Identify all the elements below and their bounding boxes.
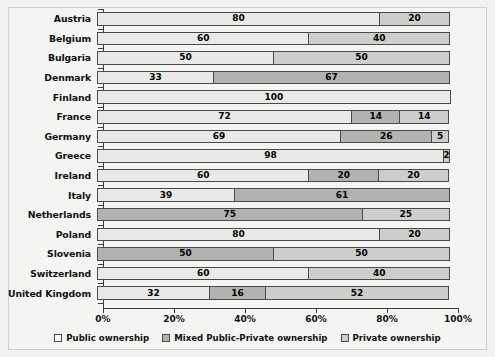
x-tick-label: 0% [95,314,110,324]
category-label: Belgium [0,33,97,44]
bar-segment-value: 40 [373,34,386,43]
stacked-bar: 6040 [97,267,451,281]
x-tick [458,308,459,313]
bar-segment-public: 98 [97,149,444,163]
bar-track: 8020 [97,12,451,26]
bar-segment-mixed: 67 [213,71,450,85]
bar-track: 982 [97,149,451,163]
legend-label: Private ownership [353,333,441,343]
y-tick [98,303,103,304]
bar-segment-public: 32 [97,286,210,300]
stacked-bar: 6040 [97,32,451,46]
bar-segment-public: 60 [97,169,309,183]
bar-segment-private: 50 [273,51,450,65]
x-tick-label: 80% [376,314,398,324]
x-tick [316,308,317,313]
bar-segment-mixed: 14 [351,110,401,124]
legend-swatch-icon [54,334,62,342]
bar-segment-value: 50 [179,249,192,258]
bar-segment-value: 80 [232,14,245,23]
bar-segment-value: 20 [408,14,421,23]
bar-segment-public: 33 [97,71,214,85]
category-label: France [0,111,97,122]
legend-item-public[interactable]: Public ownership [54,333,149,343]
bar-segment-public: 72 [97,110,352,124]
bar-segment-value: 100 [265,93,284,102]
bar-track: 321652 [97,286,451,300]
bar-segment-mixed: 26 [340,130,432,144]
bar-track: 8020 [97,228,451,242]
stacked-bar: 100 [97,90,451,104]
bar-row: France721414 [0,107,495,127]
stacked-bar: 721414 [97,110,451,124]
bar-row: Belgium6040 [0,29,495,49]
legend-swatch-icon [162,334,170,342]
category-label: Poland [0,229,97,240]
legend-item-private[interactable]: Private ownership [341,333,441,343]
bar-segment-mixed: 20 [308,169,379,183]
x-axis-tick-labels: 0%20%40%60%80%100% [0,314,495,328]
bar-segment-value: 26 [380,132,393,141]
x-tick-label: 100% [444,314,472,324]
bar-track: 6040 [97,267,451,281]
category-label: Austria [0,13,97,24]
stacked-bar: 69265 [97,130,451,144]
bar-segment-value: 50 [179,53,192,62]
x-tick-label: 60% [305,314,327,324]
bar-segment-private: 20 [378,169,449,183]
legend-swatch-icon [341,334,349,342]
bar-segment-value: 32 [147,289,160,298]
category-label: Italy [0,190,97,201]
bar-row: Switzerland6040 [0,264,495,284]
bar-track: 6040 [97,32,451,46]
bar-row: Slovenia5050 [0,244,495,264]
bar-segment-value: 69 [213,132,226,141]
stacked-bar: 602020 [97,169,451,183]
category-label: Greece [0,150,97,161]
bar-segment-value: 33 [149,73,162,82]
bar-track: 721414 [97,110,451,124]
stacked-bar-chart: Austria8020Belgium6040Bulgaria5050Denmar… [0,0,495,357]
bar-row: Bulgaria5050 [0,48,495,68]
bar-segment-value: 61 [336,191,349,200]
bar-segment-private: 40 [308,267,450,281]
bar-segment-value: 16 [231,289,244,298]
bar-segment-value: 5 [437,132,443,141]
bar-segment-value: 60 [197,171,210,180]
stacked-bar: 7525 [97,208,451,222]
x-tick [174,308,175,313]
legend-item-mixed[interactable]: Mixed Public-Private ownership [162,333,327,343]
x-tick [103,308,104,313]
bar-segment-value: 80 [232,230,245,239]
bar-segment-value: 20 [338,171,351,180]
bar-track: 602020 [97,169,451,183]
bar-segment-public: 69 [97,130,341,144]
legend-label: Public ownership [66,333,149,343]
stacked-bar: 5050 [97,247,451,261]
bar-track: 7525 [97,208,451,222]
legend-label: Mixed Public-Private ownership [174,333,327,343]
bar-segment-public: 60 [97,267,309,281]
bar-row: Greece982 [0,146,495,166]
category-label: United Kingdom [0,288,97,299]
bar-row: Italy3961 [0,185,495,205]
bar-segment-public: 80 [97,228,380,242]
bar-segment-value: 60 [197,34,210,43]
bar-track: 69265 [97,130,451,144]
x-tick-label: 40% [234,314,256,324]
bar-segment-value: 40 [373,269,386,278]
bar-segment-public: 60 [97,32,309,46]
bar-segment-private: 2 [443,149,450,163]
x-tick [387,308,388,313]
bar-row: Denmark3367 [0,68,495,88]
category-label: Denmark [0,72,97,83]
bar-row: Finland100 [0,87,495,107]
bar-track: 100 [97,90,451,104]
bar-row: Netherlands7525 [0,205,495,225]
bar-segment-value: 14 [418,112,431,121]
bar-segment-mixed: 75 [97,208,363,222]
bar-segment-mixed: 61 [234,188,450,202]
bar-segment-private: 14 [399,110,449,124]
stacked-bar: 5050 [97,51,451,65]
bar-segment-value: 14 [369,112,382,121]
